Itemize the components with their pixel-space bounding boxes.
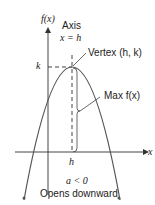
h-label: h <box>69 157 74 167</box>
vertex-label: Vertex (h, k) <box>88 48 142 58</box>
parabola-diagram: f(x) Axis x = h Vertex (h, k) k Max f(x)… <box>0 0 155 205</box>
max-label: Max f(x) <box>104 91 140 101</box>
axis-equation: x = h <box>60 33 81 43</box>
axis-label: Axis <box>62 21 81 31</box>
max-bracket <box>73 68 80 152</box>
caption: Opens downward <box>40 189 118 199</box>
vertex-pointer <box>73 53 86 66</box>
y-axis-label: f(x) <box>41 14 55 24</box>
condition-label: a < 0 <box>66 176 88 186</box>
x-axis-label: x <box>148 147 152 157</box>
k-label: k <box>36 61 40 71</box>
